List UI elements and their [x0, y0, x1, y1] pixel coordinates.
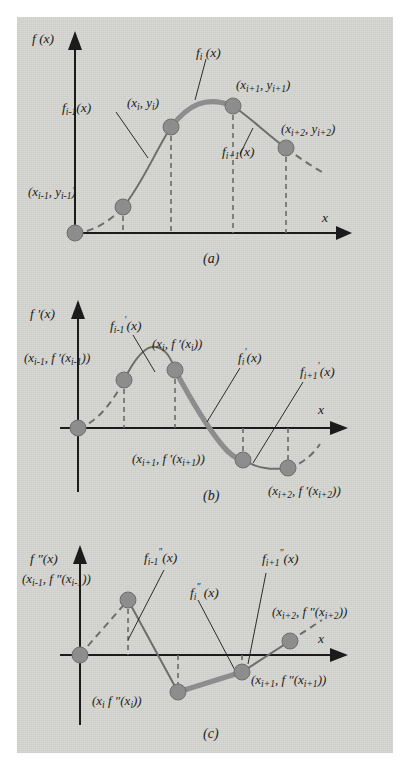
- curve-a-f-i-minus-1: [123, 127, 171, 207]
- curve-c-f-i-minus-1: [128, 600, 178, 692]
- label-f-i-a: fi (x): [196, 45, 221, 62]
- panel-a-caption: (a): [203, 251, 220, 267]
- panel-a-x-axis-label: x: [321, 210, 328, 225]
- label-f-i-plus-1-a: fi+1(x): [222, 144, 255, 161]
- knot-i-plus-2-a: [278, 140, 294, 156]
- knot-i-plus-1-c: [234, 664, 250, 680]
- knot-i-plus-1-b: [235, 452, 251, 468]
- panel-c: f ″(x) x fi-1″(x) fi″ (x) fi+1″(x) (xi-1…: [0, 515, 404, 765]
- point-label-i-minus-1-a: (xi-1, yi-1): [28, 184, 76, 201]
- panel-c-axes: [60, 545, 348, 725]
- label-fp-i-b: fi′(x): [238, 347, 262, 367]
- panel-b-caption: (b): [203, 488, 220, 504]
- knot-i-minus-1-c: [120, 592, 136, 608]
- knot-i-plus-2-c: [282, 633, 298, 649]
- label-fp-i-plus-1-b: fi+1′(x): [300, 361, 335, 381]
- panel-b: f ′(x) x fi-1′(x) fi′(x) fi+1′(x) (xi-1,…: [0, 275, 404, 515]
- y-axis-arrowhead: [71, 300, 85, 319]
- label-fpp-i-c: fi″ (x): [190, 582, 219, 602]
- x-axis-arrowhead: [330, 648, 348, 662]
- curve-c-f-i: [178, 672, 242, 692]
- knot-i-a: [163, 119, 179, 135]
- point-label-i-plus-2-b: (xi+2, f ′(xi+2)): [268, 483, 341, 500]
- point-label-i-plus-1-a: (xi+1, yi+1): [236, 77, 290, 94]
- point-label-i-minus-1-b: (xi-1, f ′(xi-1)): [24, 350, 90, 367]
- curve-c-lead-in: [80, 600, 128, 655]
- panel-c-y-axis-label: f ″(x): [30, 551, 58, 566]
- curve-b-lead-in: [78, 380, 124, 428]
- knot-i-plus-1-a: [225, 98, 241, 114]
- x-axis-arrowhead: [336, 226, 352, 240]
- curve-a-f-i: [171, 102, 233, 127]
- knot-origin-b: [70, 420, 86, 436]
- label-f-i-minus-1-a: fi-1(x): [62, 100, 92, 117]
- point-label-i-a: (xi, yi): [127, 95, 159, 112]
- point-label-i-b: (xi, f ′(xi)): [152, 336, 202, 353]
- panel-b-x-axis-label: x: [317, 402, 324, 417]
- knot-origin-a: [67, 225, 83, 241]
- point-label-i-plus-1-b: (xi+1, f ′(xi+1)): [132, 451, 205, 468]
- knot-i-minus-1-a: [115, 199, 131, 215]
- knot-i-plus-2-b: [280, 460, 296, 476]
- x-axis-arrowhead: [330, 421, 348, 435]
- curve-a-f-i-plus-1: [233, 106, 286, 148]
- point-label-i-plus-2-c: (xi+2, f ″(xi+2)): [272, 604, 347, 621]
- label-fpp-i-minus-1-c: fi-1″(x): [144, 547, 178, 567]
- figure-root: f (x) x fi-1(x) fi (x) fi+1(x) (xi-1, yi…: [0, 0, 404, 765]
- knot-i-c: [170, 684, 186, 700]
- panel-b-y-axis-label: f ′(x): [30, 306, 56, 321]
- knot-i-minus-1-b: [116, 372, 132, 388]
- panel-a: f (x) x fi-1(x) fi (x) fi+1(x) (xi-1, yi…: [0, 0, 404, 275]
- panel-c-caption: (c): [203, 726, 219, 742]
- knot-i-b: [167, 362, 183, 378]
- curve-b-f-i: [175, 370, 243, 460]
- panel-a-y-axis-label: f (x): [32, 31, 55, 46]
- label-fp-i-minus-1-b: fi-1′(x): [110, 315, 142, 335]
- point-label-i-plus-1-c: (xi+1, f ″(xi+1)): [251, 672, 326, 689]
- y-axis-arrowhead: [73, 545, 87, 564]
- point-label-i-c: (xi f ″(xi)): [92, 693, 142, 710]
- knot-origin-c: [72, 647, 88, 663]
- label-fpp-i-plus-1-c: fi+1″(x): [262, 548, 299, 568]
- panel-c-x-axis-label: x: [317, 631, 324, 646]
- point-label-i-plus-2-a: (xi+2, yi+2): [281, 121, 335, 138]
- y-axis-arrowhead: [68, 31, 82, 50]
